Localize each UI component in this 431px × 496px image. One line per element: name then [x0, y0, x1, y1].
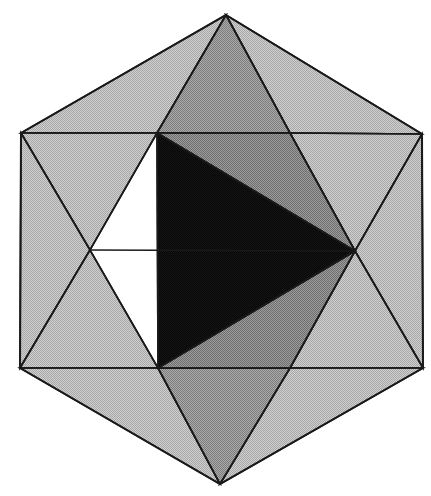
polyhedron-diagram — [0, 0, 431, 496]
edge-inner-left-to-right — [90, 250, 355, 251]
edge-top-right-to-outer-upper-right — [290, 133, 422, 134]
figure-root — [0, 0, 431, 496]
edge-black-left-vertical — [157, 133, 158, 368]
faces-layer — [20, 15, 423, 484]
